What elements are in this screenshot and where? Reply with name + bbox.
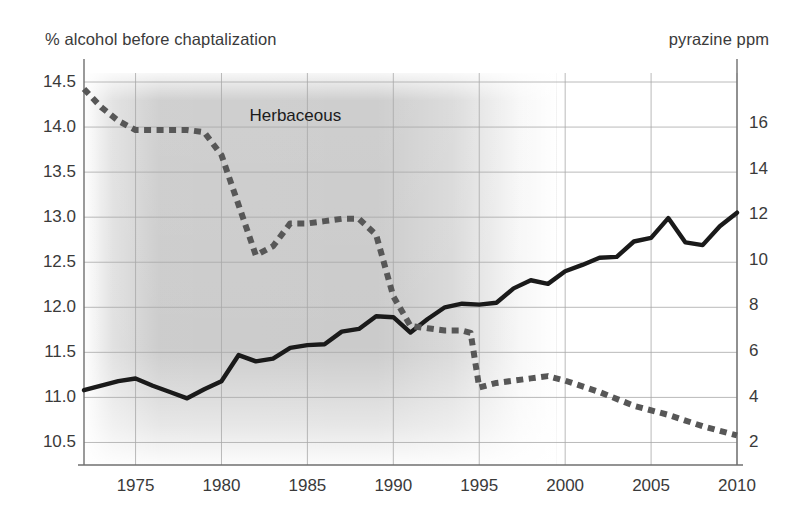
x-axis-tick-label: 1975 <box>117 476 155 496</box>
y-axis-tick-label: 11.5 <box>44 342 76 362</box>
y-axis-tick-label: 14.0 <box>43 117 76 137</box>
y-axis-tick-label: 12.0 <box>43 297 76 317</box>
right-axis-title: pyrazine ppm <box>669 30 769 49</box>
herbaceous-shaded-region <box>84 73 557 465</box>
x-axis-tick-label: 2005 <box>632 476 670 496</box>
left-axis-title: % alcohol before chaptalization <box>45 30 277 49</box>
chart-svg <box>0 0 807 516</box>
chart-figure: % alcohol before chaptalization pyrazine… <box>0 0 807 516</box>
annotation-herbaceous: Herbaceous <box>250 106 342 126</box>
y2-axis-tick-label: 2 <box>749 432 758 452</box>
x-axis-tick-label: 2010 <box>718 476 756 496</box>
y-axis-tick-label: 11.0 <box>44 387 76 407</box>
x-axis-tick-label: 1990 <box>374 476 412 496</box>
y-axis-tick-label: 13.5 <box>43 162 76 182</box>
y-axis-tick-label: 14.5 <box>43 72 76 92</box>
x-axis-tick-label: 1980 <box>203 476 241 496</box>
y-axis-tick-label: 13.0 <box>43 207 76 227</box>
x-axis-tick-label: 2000 <box>546 476 584 496</box>
x-axis-tick-label: 1985 <box>288 476 326 496</box>
y2-axis-tick-label: 10 <box>749 250 768 270</box>
x-axis-tick-label: 1995 <box>460 476 498 496</box>
y2-axis-tick-label: 14 <box>749 159 768 179</box>
y-axis-tick-label: 12.5 <box>43 252 76 272</box>
y2-axis-tick-label: 4 <box>749 387 758 407</box>
y2-axis-tick-label: 8 <box>749 295 758 315</box>
y2-axis-tick-label: 16 <box>749 113 768 133</box>
y-axis-tick-label: 10.5 <box>43 432 76 452</box>
y2-axis-tick-label: 12 <box>749 204 768 224</box>
y2-axis-tick-label: 6 <box>749 341 758 361</box>
